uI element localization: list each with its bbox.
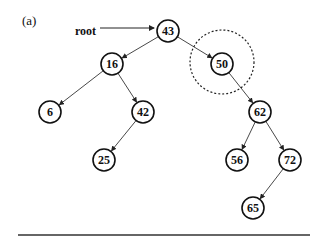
edge-72-65 xyxy=(260,169,283,199)
svg-text:56: 56 xyxy=(231,153,243,167)
node-43: 43 xyxy=(157,20,179,42)
svg-text:43: 43 xyxy=(162,24,174,38)
svg-text:25: 25 xyxy=(98,153,110,167)
svg-text:42: 42 xyxy=(137,105,149,119)
node-6: 6 xyxy=(39,101,61,123)
bst-diagram: (a) root 4316506426225567265 xyxy=(0,0,318,238)
node-56: 56 xyxy=(226,149,248,171)
edge-43-50 xyxy=(177,37,211,58)
edge-50-62 xyxy=(229,73,253,103)
edge-16-6 xyxy=(59,71,103,105)
node-42: 42 xyxy=(132,101,154,123)
edge-62-72 xyxy=(266,121,284,149)
edge-42-25 xyxy=(112,121,136,151)
edge-16-42 xyxy=(118,73,137,102)
svg-text:72: 72 xyxy=(284,153,296,167)
svg-text:62: 62 xyxy=(254,105,266,119)
figure-label: (a) xyxy=(22,13,36,28)
svg-text:6: 6 xyxy=(47,105,53,119)
svg-text:16: 16 xyxy=(106,57,118,71)
node-65: 65 xyxy=(242,197,264,219)
node-72: 72 xyxy=(279,149,301,171)
edge-62-56 xyxy=(242,122,255,149)
node-62: 62 xyxy=(249,101,271,123)
svg-text:65: 65 xyxy=(247,201,259,215)
node-25: 25 xyxy=(93,149,115,171)
svg-text:50: 50 xyxy=(216,57,228,71)
node-16: 16 xyxy=(101,53,123,75)
edge-43-16 xyxy=(122,37,158,58)
node-50: 50 xyxy=(211,53,233,75)
nodes: 4316506426225567265 xyxy=(39,20,301,219)
root-label: root xyxy=(75,24,96,38)
